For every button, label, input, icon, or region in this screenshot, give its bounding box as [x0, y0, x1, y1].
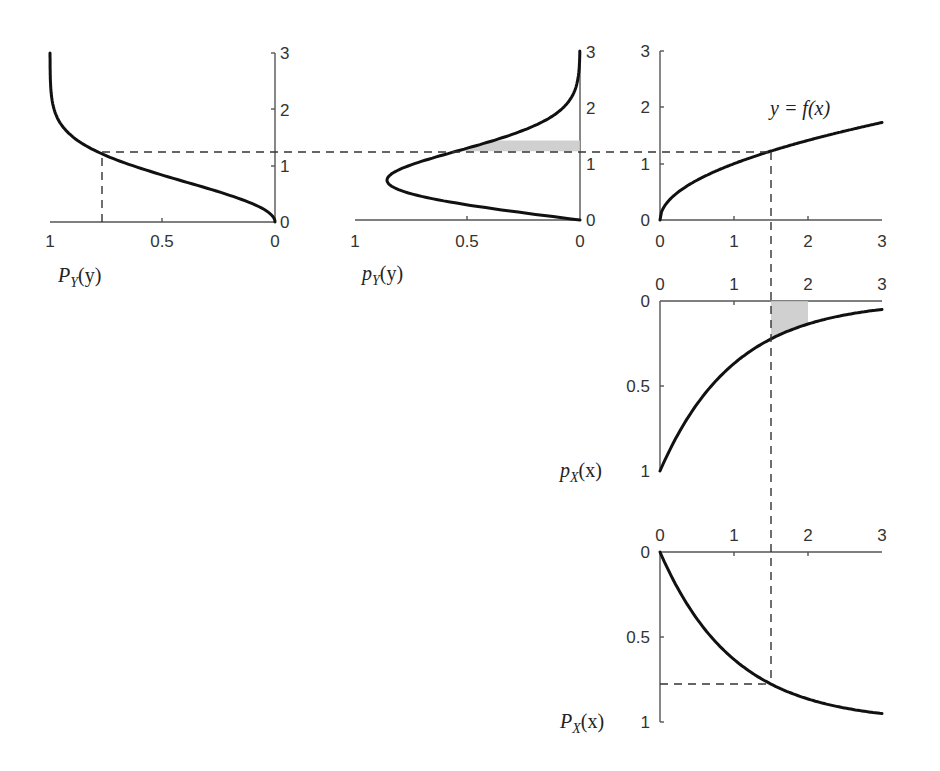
tick-label: 3 — [641, 42, 650, 61]
tick-label: 1 — [729, 526, 738, 545]
axis-label-cdf-y: PY(y) — [57, 264, 101, 290]
tick-label: 2 — [280, 101, 289, 120]
tick-label: 0 — [641, 292, 650, 311]
tick-label: 0 — [270, 232, 279, 251]
tick-label: 0 — [655, 275, 664, 294]
tick-label: 1 — [641, 155, 650, 174]
function-label: y = f(x) — [768, 97, 830, 120]
cdf-y-curve — [50, 53, 275, 222]
tick-label: 2 — [803, 275, 812, 294]
tick-label: 1 — [729, 232, 738, 251]
tick-label: 1 — [641, 462, 650, 481]
tick-label: 0 — [575, 232, 584, 251]
panel-cdf-y: 1 0.5 0 0 1 2 3 PY(y) — [45, 44, 289, 290]
tick-label: 3 — [586, 43, 595, 62]
tick-label: 0 — [586, 211, 595, 230]
tick-label: 1 — [280, 157, 289, 176]
tick-label: 2 — [803, 232, 812, 251]
tick-label: 3 — [877, 232, 886, 251]
tick-label: 1 — [350, 232, 359, 251]
tick-label: 0 — [655, 526, 664, 545]
panel-pdf-x: 0 1 2 3 0 0.5 1 pX(x) — [558, 275, 887, 485]
panel-cdf-x: 0 1 2 3 0 0.5 1 PX(x) — [559, 526, 887, 736]
axis-label-pdf-x: pX(x) — [558, 459, 602, 485]
transformation-figure: 1 0.5 0 0 1 2 3 PY(y) 1 0.5 0 0 1 2 3 pY… — [0, 0, 940, 771]
axis-label-pdf-y: pY(y) — [360, 262, 403, 288]
tick-label: 2 — [586, 99, 595, 118]
pdf-y-curve — [387, 51, 580, 220]
tick-label: 0 — [280, 213, 289, 232]
tick-label: 0.5 — [455, 232, 479, 251]
tick-label: 2 — [803, 526, 812, 545]
tick-label: 0.5 — [150, 232, 174, 251]
panel-pdf-y: 1 0.5 0 0 1 2 3 pY(y) — [350, 43, 595, 288]
shaded-probability-region — [771, 301, 808, 339]
tick-label: 0.5 — [626, 377, 650, 396]
tick-label: 1 — [641, 713, 650, 732]
tick-label: 0 — [641, 543, 650, 562]
tick-label: 1 — [729, 275, 738, 294]
tick-label: 0 — [655, 232, 664, 251]
tick-label: 1 — [586, 155, 595, 174]
tick-label: 3 — [877, 526, 886, 545]
axis-label-cdf-x: PX(x) — [559, 710, 604, 736]
tick-label: 3 — [280, 44, 289, 63]
tick-label: 2 — [641, 98, 650, 117]
tick-label: 1 — [45, 232, 54, 251]
tick-label: 0.5 — [626, 628, 650, 647]
panel-transform-function: 0 1 2 3 0 1 2 3 y = f(x) — [641, 42, 887, 251]
tick-label: 0 — [641, 211, 650, 230]
tick-label: 3 — [877, 275, 886, 294]
